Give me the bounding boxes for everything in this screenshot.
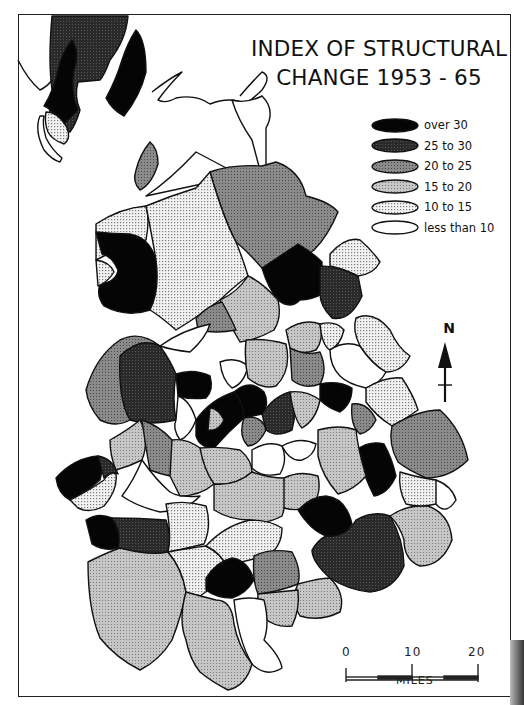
legend-label: 15 to 20 [424, 180, 472, 194]
legend-swatch-over-30 [370, 118, 420, 133]
scale-tick-20: 20 [468, 645, 485, 659]
north-label: N [434, 320, 464, 336]
legend-swatch-less-than-10 [370, 220, 420, 235]
north-indicator: N [434, 320, 464, 400]
legend-item-less-than-10: less than 10 [370, 218, 494, 239]
legend-swatch-25-to-30 [370, 138, 420, 153]
legend-label: over 30 [424, 118, 468, 132]
legend-swatch-10-to-15 [370, 200, 420, 215]
legend-item-25-to-30: 25 to 30 [370, 136, 494, 157]
title-line-1: INDEX OF STRUCTURAL [248, 34, 510, 63]
legend-item-over-30: over 30 [370, 115, 494, 136]
scale-tick-10: 10 [404, 645, 421, 659]
title-line-2: CHANGE 1953 - 65 [248, 63, 510, 92]
scale-labels: 0 10 20 MILES [340, 645, 490, 693]
legend-swatch-15-to-20 [370, 179, 420, 194]
legend-label: 10 to 15 [424, 200, 472, 214]
scale-tick-0: 0 [342, 645, 351, 659]
legend-label: 25 to 30 [424, 139, 472, 153]
legend-item-15-to-20: 15 to 20 [370, 177, 494, 198]
legend-label: less than 10 [424, 221, 494, 235]
legend: over 30 25 to 30 20 to 25 15 to 20 10 to… [370, 115, 494, 238]
legend-label: 20 to 25 [424, 159, 472, 173]
legend-swatch-20-to-25 [370, 159, 420, 174]
legend-item-20-to-25: 20 to 25 [370, 156, 494, 177]
scale-unit: MILES [396, 674, 434, 687]
legend-item-10-to-15: 10 to 15 [370, 197, 494, 218]
map-title: INDEX OF STRUCTURAL CHANGE 1953 - 65 [248, 34, 510, 92]
